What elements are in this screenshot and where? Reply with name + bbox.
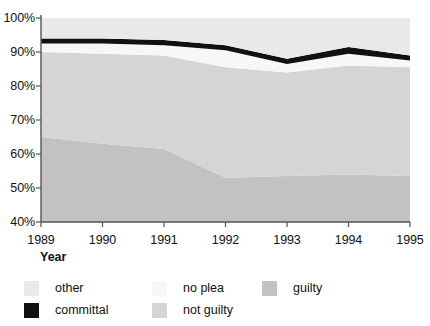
legend-label: other [55,281,84,295]
x-axis-tick-label: 1991 [150,233,177,247]
legend-item-not-guilty[interactable]: not guilty [152,299,233,321]
x-axis-tick-label: 1993 [273,233,300,247]
x-axis-tick-label: 1995 [396,233,423,247]
legend-item-other[interactable]: other [24,277,84,299]
legend-label: guilty [293,281,322,295]
legend-item-no-plea[interactable]: no plea [152,277,224,299]
x-axis-tick-label: 1992 [212,233,239,247]
plot-svg [0,0,430,240]
legend-row: otherno pleaguilty [24,277,424,299]
legend-swatch-icon [262,281,277,296]
stacked-area-chart: 40%50%60%70%80%90%100% 19891990199119921… [0,0,430,326]
legend-item-guilty[interactable]: guilty [262,277,322,299]
legend-item-committal[interactable]: committal [24,299,108,321]
chart-legend: otherno pleaguilty committalnot guilty [24,277,424,321]
legend-swatch-icon [152,303,167,318]
legend-swatch-icon [24,281,39,296]
y-axis-tick-label: 70% [10,113,35,127]
series-layer [41,18,410,222]
y-axis-tick-label: 40% [10,215,35,229]
legend-row: committalnot guilty [24,299,424,321]
legend-label: no plea [183,281,224,295]
x-axis-tick-label: 1989 [27,233,54,247]
y-axis-tick-label: 90% [10,45,35,59]
y-axis-tick-label: 80% [10,79,35,93]
x-axis-title: Year [40,250,66,264]
legend-label: committal [55,303,108,317]
legend-swatch-icon [152,281,167,296]
x-axis-tick-label: 1990 [89,233,116,247]
y-axis-tick-label: 100% [3,11,35,25]
legend-swatch-icon [24,303,39,318]
x-axis-tick-label: 1994 [335,233,362,247]
plot-area [0,0,430,240]
y-axis-tick-label: 60% [10,147,35,161]
y-axis-tick-label: 50% [10,181,35,195]
legend-label: not guilty [183,303,233,317]
